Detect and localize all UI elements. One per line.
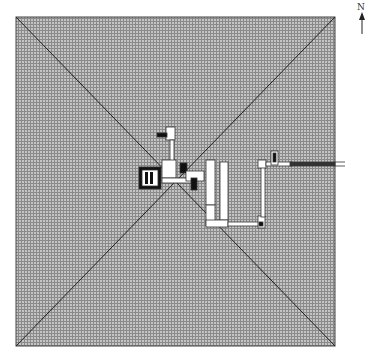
pyramid-plan [0,0,380,361]
north-arrow-icon [359,12,365,34]
